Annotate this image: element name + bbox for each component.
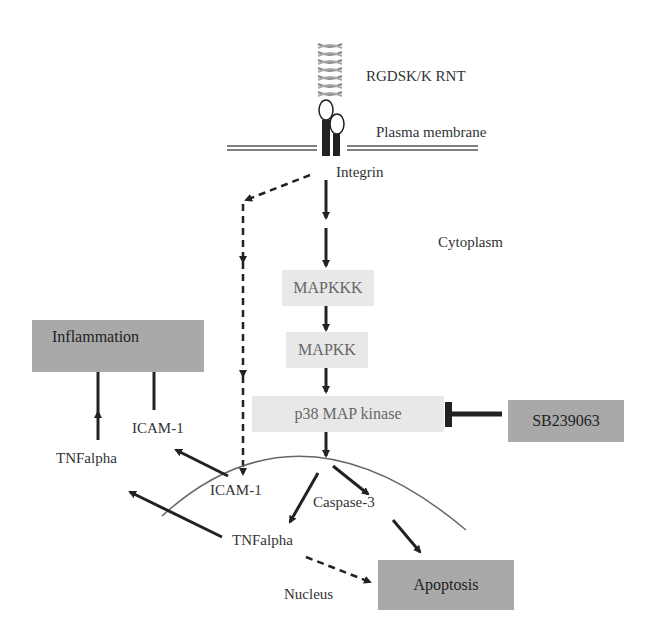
cytoplasm-label: Cytoplasm bbox=[438, 234, 503, 251]
tnfalpha-outside-label: TNFalpha bbox=[56, 450, 117, 467]
inflammation-box: Inflammation bbox=[32, 320, 204, 372]
icam1-outside-label: ICAM-1 bbox=[132, 420, 184, 437]
ligand-helix-icon bbox=[316, 42, 346, 100]
integrin-label: Integrin bbox=[336, 164, 383, 181]
integrin-receptor-icon bbox=[319, 100, 344, 156]
mapkkk-box: MAPKKK bbox=[282, 270, 374, 306]
sb239063-box: SB239063 bbox=[508, 400, 624, 442]
nucleus-label: Nucleus bbox=[284, 586, 333, 603]
icam1-nucleus-label: ICAM-1 bbox=[210, 482, 262, 499]
caspase3-label: Caspase-3 bbox=[313, 494, 375, 511]
tnfalpha-nucleus-label: TNFalpha bbox=[232, 532, 293, 549]
apoptosis-box: Apoptosis bbox=[378, 560, 514, 610]
ligand-label: RGDSK/K RNT bbox=[366, 68, 466, 85]
mapkk-box: MAPKK bbox=[286, 332, 368, 368]
pathway-diagram: RGDSK/K RNT Plasma membrane Integrin Cyt… bbox=[0, 0, 660, 639]
plasma-membrane bbox=[227, 146, 478, 150]
inhibition-bar bbox=[445, 402, 502, 427]
membrane-label: Plasma membrane bbox=[376, 124, 486, 141]
p38-box: p38 MAP kinase bbox=[252, 396, 444, 432]
